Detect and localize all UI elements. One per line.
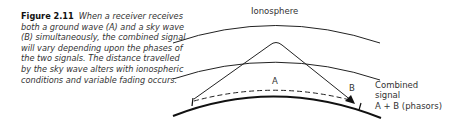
ionosphere-upper-boundary	[173, 26, 380, 44]
combined-line-3: A + B (phasors)	[375, 101, 442, 111]
sky-wave-path	[194, 43, 352, 102]
combined-line-2: signal	[375, 90, 442, 100]
combined-line-1: Combined	[375, 80, 442, 90]
receiver-marker	[359, 103, 361, 110]
transmitter-marker	[192, 98, 193, 106]
sky-wave-label: B	[349, 83, 355, 93]
combined-signal-label: Combined signal A + B (phasors)	[375, 80, 442, 111]
ionosphere-label: Ionosphere	[251, 6, 298, 16]
ground-wave-label: A	[272, 76, 278, 86]
